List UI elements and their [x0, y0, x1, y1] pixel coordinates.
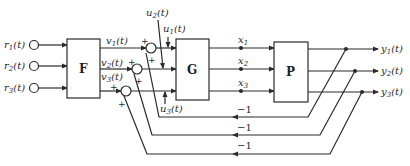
- feedback-gain-1: −1: [237, 105, 252, 115]
- disturbance-label-u3: u3(t): [160, 104, 183, 116]
- output-label-y2: y2(t): [381, 66, 403, 78]
- input-terminal-r2: [30, 62, 39, 71]
- block-f-label: F: [79, 63, 88, 75]
- plus-sign: +: [128, 58, 136, 67]
- disturbance-label-u1: u1(t): [163, 24, 186, 36]
- feedback-gain-3: −1: [237, 141, 252, 151]
- output-label-y3: y3(t): [381, 87, 403, 99]
- input-label-r2: r2(t): [4, 61, 25, 73]
- plus-sign: +: [148, 56, 156, 65]
- feedback-gain-2: −1: [237, 123, 252, 133]
- state-label-x1: x1: [238, 35, 248, 47]
- plus-sign: +: [110, 83, 118, 92]
- signal-label-v2: v2(t): [101, 58, 123, 70]
- disturbance-label-u2: u2(t): [146, 8, 169, 20]
- state-label-x3: x3: [238, 78, 248, 90]
- diagram-lines: [0, 0, 410, 166]
- summing-junction-3: [121, 86, 131, 96]
- signal-label-v1: v1(t): [106, 36, 128, 48]
- block-g-label: G: [187, 64, 197, 76]
- block-diagram: r1(t) r2(t) r3(t) F G P v1(t) v2(t) v3(t…: [0, 0, 410, 166]
- plus-sign: +: [118, 100, 126, 109]
- output-label-y1: y1(t): [381, 44, 403, 56]
- input-terminal-r1: [30, 41, 39, 50]
- input-terminal-r3: [30, 84, 39, 93]
- input-label-r3: r3(t): [4, 83, 25, 95]
- plus-sign: +: [141, 37, 149, 46]
- state-label-x2: x2: [238, 56, 248, 68]
- block-p-label: P: [286, 66, 295, 78]
- plus-sign: +: [135, 77, 143, 86]
- input-label-r1: r1(t): [4, 40, 25, 52]
